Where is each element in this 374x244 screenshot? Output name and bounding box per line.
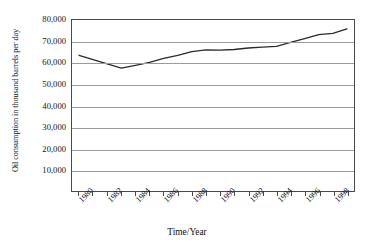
data-series-svg: [72, 20, 354, 191]
x-axis-tick-mark: [348, 192, 349, 196]
plot-area: [71, 19, 355, 192]
x-axis-tick-mark: [178, 192, 179, 196]
gridline: [72, 42, 354, 43]
gridline: [72, 150, 354, 151]
gridline: [72, 85, 354, 86]
x-axis-tick-mark: [320, 192, 321, 196]
x-axis-tick-mark: [121, 192, 122, 196]
gridline: [72, 128, 354, 129]
x-axis-tick-mark: [92, 192, 93, 196]
x-axis-tick-mark: [263, 192, 264, 196]
x-axis-tick-mark: [291, 192, 292, 196]
gridline: [72, 171, 354, 172]
x-axis-tick-mark: [206, 192, 207, 196]
y-axis-title: Oil consumption in thousand barrels per …: [11, 8, 20, 194]
x-axis-tick-mark: [234, 192, 235, 196]
gridline: [72, 63, 354, 64]
x-axis-title: Time/Year: [0, 227, 374, 237]
gridline: [72, 107, 354, 108]
oil-consumption-line-chart: Oil consumption in thousand barrels per …: [0, 0, 374, 244]
x-axis-tick-mark: [149, 192, 150, 196]
